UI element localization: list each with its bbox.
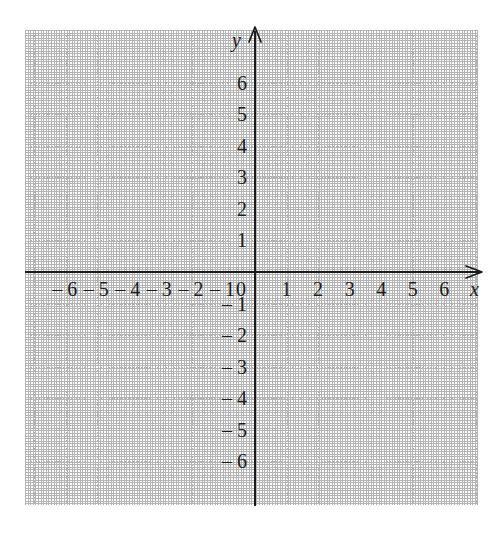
x-tick-label: – 5	[79, 279, 113, 299]
gridline-vertical	[318, 30, 319, 505]
x-tick-label: 5	[396, 279, 430, 299]
gridline-vertical	[160, 30, 161, 505]
gridline-vertical	[129, 30, 130, 505]
y-tick-label: 2	[207, 199, 247, 219]
gridline-horizontal	[25, 83, 478, 84]
y-tick-label: 5	[207, 104, 247, 124]
gridline-horizontal	[25, 114, 478, 115]
x-tick-label: 4	[364, 279, 398, 299]
gridline-vertical	[287, 30, 288, 505]
y-tick-label: – 6	[207, 451, 247, 471]
coordinate-plane-figure: x y – 6– 5– 4– 3– 2– 10123456654321– 1– …	[0, 0, 504, 549]
gridline-horizontal	[25, 461, 478, 462]
x-tick-label: 2	[301, 279, 335, 299]
y-tick-label: 3	[207, 167, 247, 187]
gridline-horizontal	[25, 51, 478, 52]
gridline-horizontal	[25, 335, 478, 336]
gridline-horizontal	[25, 209, 478, 210]
gridline-horizontal	[25, 177, 478, 178]
y-tick-label: 1	[207, 230, 247, 250]
y-axis-line	[254, 31, 256, 506]
gridline-vertical	[66, 30, 67, 505]
y-tick-label: – 5	[207, 420, 247, 440]
grid-area	[25, 30, 478, 505]
gridline-vertical	[444, 30, 445, 505]
gridline-horizontal	[25, 430, 478, 431]
gridline-vertical	[350, 30, 351, 505]
x-tick-label: 3	[333, 279, 367, 299]
gridline-horizontal	[25, 367, 478, 368]
gridline-horizontal	[25, 146, 478, 147]
y-axis-label: y	[232, 30, 241, 50]
x-tick-label: – 6	[48, 279, 82, 299]
gridline-vertical	[381, 30, 382, 505]
y-tick-label: 4	[207, 136, 247, 156]
y-tick-label: – 3	[207, 357, 247, 377]
gridline-horizontal	[25, 240, 478, 241]
gridline-vertical	[192, 30, 193, 505]
x-tick-label: – 4	[111, 279, 145, 299]
gridline-vertical	[97, 30, 98, 505]
x-tick-label: 1	[270, 279, 304, 299]
x-tick-label: 6	[427, 279, 461, 299]
x-tick-label: – 2	[174, 279, 208, 299]
gridline-horizontal	[25, 493, 478, 494]
x-axis-label: x	[470, 279, 479, 299]
y-tick-label: – 1	[207, 294, 247, 314]
y-tick-label: – 4	[207, 388, 247, 408]
y-axis-arrowhead	[244, 24, 268, 44]
gridline-horizontal	[25, 398, 478, 399]
gridline-vertical	[413, 30, 414, 505]
x-tick-label: – 3	[142, 279, 176, 299]
y-tick-label: – 2	[207, 325, 247, 345]
gridline-vertical	[34, 30, 35, 505]
y-tick-label: 6	[207, 73, 247, 93]
gridline-horizontal	[25, 304, 478, 305]
